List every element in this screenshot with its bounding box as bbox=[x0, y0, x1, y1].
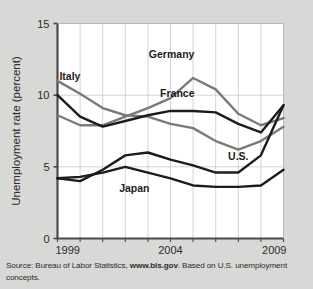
y-tick-label-15: 15 bbox=[37, 18, 49, 30]
y-axis-title-text: Unemployment rate (percent) bbox=[10, 56, 22, 206]
y-tick-label-0: 0 bbox=[43, 233, 49, 245]
source-link: www.bls.gov bbox=[130, 261, 178, 270]
series-label-japan: Japan bbox=[119, 182, 149, 194]
y-tick-label-5: 5 bbox=[43, 161, 49, 173]
line-chart: 051015 199920042009 GermanyItalyFranceU.… bbox=[0, 0, 313, 289]
unemployment-rate-figure: 051015 199920042009 GermanyItalyFranceU.… bbox=[0, 0, 313, 289]
source-note: Source: Bureau of Labor Statistics, www.… bbox=[6, 260, 308, 283]
series-label-france: France bbox=[160, 87, 195, 99]
x-tick-label-1999: 1999 bbox=[56, 244, 80, 256]
y-tick-label-10: 10 bbox=[37, 89, 49, 101]
source-prefix: Source: Bureau of Labor Statistics, bbox=[6, 261, 130, 270]
series-label-germany: Germany bbox=[149, 48, 195, 60]
x-tick-label-2004: 2004 bbox=[158, 244, 182, 256]
series-label-italy: Italy bbox=[59, 70, 80, 82]
series-label-us: U.S. bbox=[228, 150, 249, 162]
y-axis-title: Unemployment rate (percent) bbox=[10, 56, 22, 206]
x-tick-label-2009: 2009 bbox=[262, 244, 286, 256]
